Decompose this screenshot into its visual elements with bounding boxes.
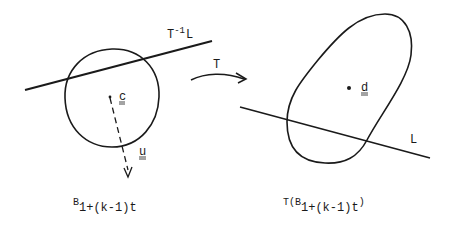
right-panel: d L T(B1+(k-1)t) (240, 14, 430, 215)
center-point-c (109, 96, 112, 99)
direction-vector-u (110, 98, 128, 170)
mapping-arrow: T (191, 58, 246, 83)
image-label: T(B1+(k-1)t) (283, 197, 365, 215)
preimage-line-label: T-1L (167, 26, 193, 42)
mapping-arrow-curve (191, 74, 244, 80)
ball-label: B1+(k-1)t (73, 197, 137, 215)
line-L (240, 107, 430, 158)
line-L-label: L (410, 133, 417, 147)
left-panel: T-1L c u B1+(k-1)t (25, 26, 212, 215)
ball-circle (65, 49, 159, 147)
mapping-label: T (213, 58, 220, 72)
center-point-d (347, 86, 351, 90)
diagram-canvas: T-1L c u B1+(k-1)t T d L (0, 0, 451, 226)
